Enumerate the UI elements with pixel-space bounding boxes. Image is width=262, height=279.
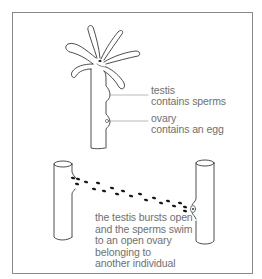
mouth-icon bbox=[98, 60, 101, 62]
testis-label-desc: contains sperms bbox=[151, 96, 226, 107]
hydra-body bbox=[91, 69, 110, 149]
left-hydra-column bbox=[54, 161, 76, 240]
ovary-label: ovary contains an egg bbox=[151, 113, 224, 135]
egg-icon bbox=[105, 119, 108, 122]
caption-line: the testis bursts open bbox=[95, 212, 193, 224]
right-hydra-column bbox=[191, 160, 215, 244]
sperm-swarm bbox=[71, 176, 188, 212]
testis-label: testis contains sperms bbox=[151, 85, 226, 107]
hydra-tentacles bbox=[66, 26, 140, 89]
bottom-caption: the testis bursts open and the sperms sw… bbox=[95, 212, 193, 270]
caption-line: to an open ovary bbox=[95, 235, 193, 247]
ovary-label-desc: contains an egg bbox=[151, 124, 224, 135]
caption-line: another individual bbox=[95, 258, 193, 270]
